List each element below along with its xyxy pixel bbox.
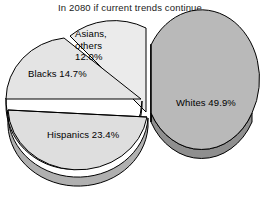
slice-label-asians-others: Asians, others 12.0% xyxy=(75,28,121,63)
slice-label-asians-line-2: others xyxy=(75,40,121,52)
slice-label-asians-line-3: 12.0% xyxy=(75,51,121,63)
slice-label-blacks: Blacks 14.7% xyxy=(28,68,87,80)
slice-label-whites: Whites 49.9% xyxy=(176,97,236,109)
slice-label-asians-line-1: Asians, xyxy=(75,28,121,40)
pie-slice-hispanics[interactable] xyxy=(8,110,148,186)
pie-chart-figure: In 2080 if current trends continue xyxy=(0,0,260,201)
slice-label-hispanics: Hispanics 23.4% xyxy=(47,129,119,141)
pie-slice-whites[interactable] xyxy=(151,10,259,159)
